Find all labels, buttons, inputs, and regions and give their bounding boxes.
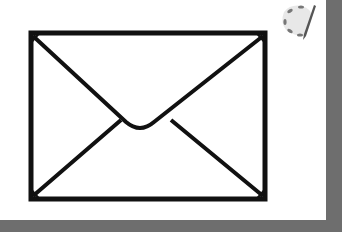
- paint-palette-brush-icon: [276, 2, 322, 42]
- envelope-icon: [28, 30, 268, 202]
- white-card: [0, 0, 326, 220]
